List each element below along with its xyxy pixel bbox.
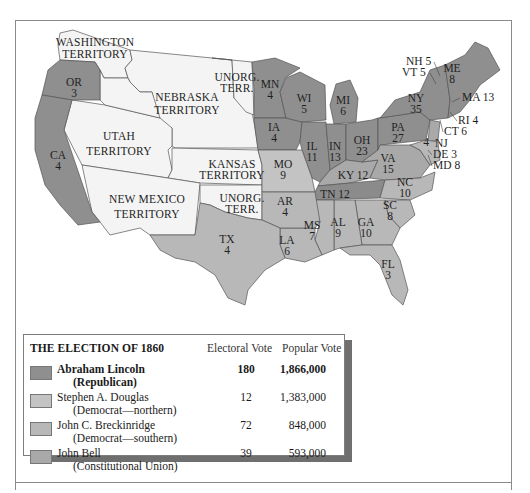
popular-vote: 593,000 — [289, 447, 326, 459]
column-header-electoral-vote: Electoral Vote — [207, 342, 272, 354]
electoral-vote: 72 — [232, 419, 260, 431]
label-ma: MA 13 — [462, 91, 495, 103]
label-ct: CT 6 — [444, 125, 467, 137]
electoral-vote: 39 — [232, 447, 260, 459]
legend-title: THE ELECTION OF 1860 — [30, 342, 164, 354]
label-washington-territory: WASHINGTONTERRITORY — [56, 36, 135, 60]
candidate-name: John Bell(Constitutional Union) — [57, 447, 177, 473]
swatch-democrat-southern — [30, 422, 52, 436]
candidate-name: Stephen A. Douglas(Democrat—northern) — [57, 391, 176, 417]
label-unorg-south: UNORG.TERR. — [220, 192, 265, 215]
swatch-republican — [30, 366, 52, 380]
label-kansas-territory: KANSASTERRITORY — [199, 158, 265, 181]
electoral-vote: 12 — [232, 391, 260, 403]
label-pa: PA27 — [391, 121, 405, 144]
state-florida — [340, 245, 408, 305]
label-ky: KY 12 — [338, 169, 369, 181]
legend-table: THE ELECTION OF 1860 Electoral Vote Popu… — [23, 334, 345, 456]
candidate-name: John C. Breckinridge(Democrat—southern) — [57, 419, 177, 445]
label-nj-ev: 4 — [423, 136, 429, 148]
label-nebraska-territory: NEBRASKATERRITORY — [154, 91, 220, 116]
label-unorg-north: UNORG.TERR. — [215, 71, 260, 94]
swatch-constitutional-union — [30, 450, 52, 464]
candidate-name: Abraham Lincoln(Republican) — [57, 363, 145, 389]
label-md: MD 8 — [433, 159, 460, 171]
legend-row-bell: John Bell(Constitutional Union) 39 593,0… — [24, 447, 344, 475]
popular-vote: 1,383,000 — [280, 391, 326, 403]
legend-row-breckinridge: John C. Breckinridge(Democrat—southern) … — [24, 419, 344, 447]
label-il: IL11 — [306, 140, 317, 163]
column-header-popular-vote: Popular Vote — [282, 342, 341, 354]
popular-vote: 1,866,000 — [280, 363, 326, 375]
popular-vote: 848,000 — [289, 419, 326, 431]
legend-row-lincoln: Abraham Lincoln(Republican) 180 1,866,00… — [24, 363, 344, 391]
swatch-democrat-northern — [30, 394, 52, 408]
electoral-vote: 180 — [232, 363, 260, 375]
label-tn: TN 12 — [320, 188, 350, 200]
label-vt: VT 5 — [402, 66, 426, 78]
label-in: IN13 — [329, 140, 342, 163]
legend-row-douglas: Stephen A. Douglas(Democrat—northern) 12… — [24, 391, 344, 419]
